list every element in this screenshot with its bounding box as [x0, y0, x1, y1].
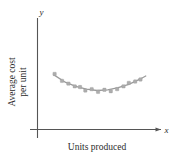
data-point: [84, 89, 87, 92]
scatterplot-figure: y x Units produced Average cost per unit: [0, 0, 177, 163]
data-point: [53, 72, 56, 75]
y-axis-title-line2: per unit: [18, 67, 28, 97]
data-point: [73, 85, 76, 88]
y-axis-title-line1: Average cost: [7, 57, 17, 107]
data-point: [133, 80, 136, 83]
x-axis-title: Units produced: [68, 142, 127, 152]
data-point: [96, 90, 99, 93]
plot-canvas: y x Units produced Average cost per unit: [0, 0, 177, 163]
data-point: [139, 78, 142, 81]
data-point: [103, 88, 106, 91]
y-axis-symbol: y: [39, 7, 44, 17]
data-point: [60, 79, 63, 82]
data-point: [109, 89, 112, 92]
data-point: [122, 85, 125, 88]
x-axis-symbol: x: [164, 125, 169, 135]
x-axis-arrow-icon: [156, 127, 162, 131]
data-point: [67, 82, 70, 85]
data-point: [127, 81, 130, 84]
data-point: [90, 87, 93, 90]
y-axis-title: Average cost per unit: [7, 57, 28, 107]
data-point: [115, 87, 118, 90]
data-point: [78, 85, 81, 88]
